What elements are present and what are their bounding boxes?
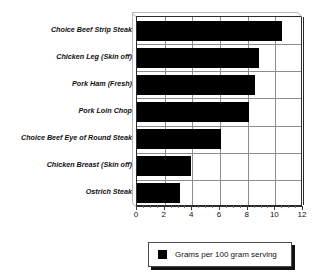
legend-label: Grams per 100 gram serving	[175, 250, 277, 259]
minor-tick	[198, 206, 199, 208]
band-separator	[137, 44, 301, 45]
minor-tick	[150, 206, 151, 208]
x-tick-label: 6	[209, 210, 229, 219]
minor-tick	[288, 206, 289, 208]
bar-chart: 024681012 Choice Beef Strip SteakChicken…	[0, 0, 315, 278]
minor-tick	[226, 206, 227, 208]
x-tick-label: 0	[126, 210, 146, 219]
bar	[137, 183, 180, 203]
bar	[137, 156, 191, 176]
minor-tick	[171, 206, 172, 208]
bar	[137, 48, 259, 68]
category-label: Ostrich Steak	[86, 187, 132, 196]
minor-tick	[233, 206, 234, 208]
band-separator	[137, 98, 301, 99]
gridline-10	[275, 17, 276, 205]
gridline-12	[303, 17, 304, 205]
minor-tick	[143, 206, 144, 208]
minor-tick	[254, 206, 255, 208]
bar	[137, 129, 221, 149]
category-label: Pork Ham (Fresh)	[72, 79, 132, 88]
bar	[137, 21, 282, 41]
bar	[137, 102, 249, 122]
minor-tick	[157, 206, 158, 208]
x-tick-label: 12	[292, 210, 312, 219]
minor-tick	[281, 206, 282, 208]
bar	[137, 75, 255, 95]
minor-tick	[240, 206, 241, 208]
band-separator	[137, 126, 301, 127]
minor-tick	[295, 206, 296, 208]
category-label: Chicken Leg (Skin off)	[56, 52, 132, 61]
minor-tick	[267, 206, 268, 208]
minor-tick	[212, 206, 213, 208]
legend-swatch-icon	[158, 250, 167, 259]
category-label: Choice Beef Strip Steak	[51, 25, 132, 34]
category-label: Chicken Breast (Skin off)	[47, 160, 132, 169]
band-separator	[137, 71, 301, 72]
minor-tick	[184, 206, 185, 208]
category-label: Choice Beef Eye of Round Steak	[21, 133, 132, 142]
minor-tick	[205, 206, 206, 208]
minor-tick	[261, 206, 262, 208]
minor-tick	[178, 206, 179, 208]
x-tick-label: 2	[154, 210, 174, 219]
x-tick-label: 10	[264, 210, 284, 219]
x-tick-label: 8	[237, 210, 257, 219]
x-tick-label: 4	[181, 210, 201, 219]
category-label: Pork Loin Chop	[78, 106, 132, 115]
plot-area	[136, 16, 302, 206]
legend: Grams per 100 gram serving	[148, 242, 292, 267]
band-separator	[137, 153, 301, 154]
band-separator	[137, 180, 301, 181]
